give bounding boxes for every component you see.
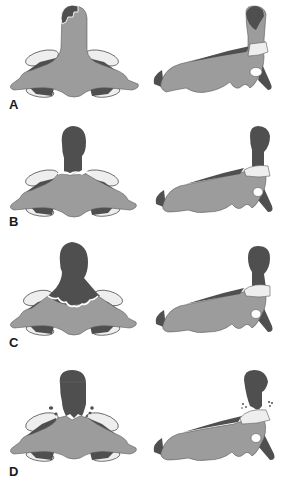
panel-label-b: B bbox=[9, 215, 18, 228]
side-view-c bbox=[150, 236, 284, 336]
front-view-c bbox=[0, 236, 150, 336]
panel-c: C bbox=[0, 236, 284, 358]
fragment-dot bbox=[49, 406, 53, 410]
front-view-b bbox=[0, 118, 150, 218]
side-view-d bbox=[150, 358, 284, 463]
front-view-d bbox=[0, 358, 150, 463]
side-view-a bbox=[150, 0, 284, 100]
panel-d: D bbox=[0, 358, 284, 487]
front-view-a bbox=[0, 0, 150, 100]
panel-label-a: A bbox=[9, 98, 18, 111]
panel-b: B bbox=[0, 118, 284, 236]
panel-a: A bbox=[0, 0, 284, 118]
side-view-b bbox=[150, 118, 284, 218]
panel-label-c: C bbox=[9, 336, 18, 349]
panel-label-d: D bbox=[9, 465, 18, 478]
